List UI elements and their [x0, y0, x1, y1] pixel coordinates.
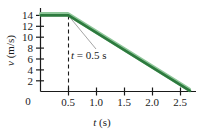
velocity-curve [41, 15, 190, 90]
x-tick-label-1-5: 1.5 [111, 97, 137, 108]
x-tick-label-2-0: 2.0 [139, 97, 165, 108]
origin-label: 0 [21, 96, 35, 107]
y-axis-title: v (m/s) [5, 28, 16, 74]
velocity-curve-highlight [41, 14, 189, 89]
x-tick-label-1-0: 1.0 [83, 97, 109, 108]
x-axis-unit: (s) [99, 116, 111, 128]
annotation-t-equals-0-5s: t = 0.5 s [71, 50, 107, 61]
x-axis-variable: t [93, 116, 96, 128]
x-tick-label-0-5: 0.5 [55, 97, 81, 108]
annotation-value: = 0.5 s [74, 49, 106, 61]
velocity-time-chart: 14 12 10 8 6 4 2 0.5 1.0 1.5 2.0 2.5 0 v… [0, 0, 203, 131]
y-tick-label-2: 2 [11, 76, 33, 87]
x-axis-title: t (s) [82, 117, 122, 128]
y-axis-variable: v [4, 61, 16, 66]
y-axis-unit: (m/s) [4, 35, 16, 58]
x-tick-label-2-5: 2.5 [167, 97, 193, 108]
